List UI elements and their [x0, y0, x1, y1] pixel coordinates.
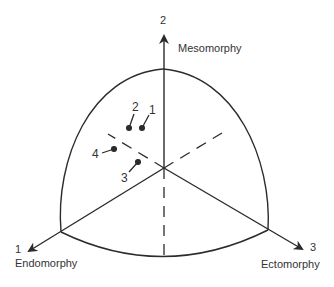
axis-2-number: 2 [160, 14, 166, 26]
axis-2-name: Mesomorphy [178, 42, 242, 54]
right-arc [163, 69, 268, 230]
point-4-label: 4 [92, 148, 99, 160]
point-4-dot [112, 147, 117, 152]
axis-3-name: Ectomorphy [261, 258, 320, 270]
axis-3-number: 3 [310, 241, 316, 253]
dashed-line-up-right [164, 133, 222, 168]
axis-1-name: Endomorphy [15, 257, 77, 269]
dashed-lines [108, 133, 222, 257]
point-2-label: 2 [132, 101, 139, 113]
point-1-label: 1 [149, 104, 156, 116]
axis-1-endomorphy [29, 168, 164, 251]
point-1-dot [140, 126, 145, 131]
point-3-label: 3 [121, 172, 128, 184]
axis-1-number: 1 [15, 243, 21, 255]
point-2-dot [127, 126, 132, 131]
point-3-dot [136, 160, 141, 165]
somatotype-diagram [0, 0, 334, 287]
axis-3-ectomorphy [164, 168, 302, 249]
axes [29, 36, 302, 251]
data-points [102, 114, 149, 172]
